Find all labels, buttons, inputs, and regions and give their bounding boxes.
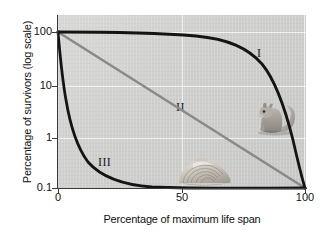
y-tick-label-1: 1 <box>22 132 52 143</box>
y-tick-label-1-wrap: 1 <box>22 132 52 144</box>
plot-area: I II III <box>58 15 306 188</box>
x-tick-label-100: 100 <box>285 192 325 203</box>
survivorship-curve-figure: Percentage of survivors (log scale) Perc… <box>0 0 334 234</box>
y-tick-label-10: 10 <box>22 80 52 91</box>
x-tick-label-50: 50 <box>162 192 202 203</box>
y-tick-label-100-wrap: 100 <box>22 26 52 38</box>
gridline-x-100 <box>304 15 305 188</box>
label-type-iii: III <box>98 155 111 170</box>
label-type-i: I <box>257 46 261 61</box>
x-axis-label: Percentage of maximum life span <box>58 213 306 225</box>
y-tick-mark-100 <box>52 32 58 33</box>
label-type-ii: II <box>176 100 185 115</box>
y-tick-mark-1 <box>52 138 58 139</box>
y-tick-mark-10 <box>52 86 58 87</box>
y-tick-label-100: 100 <box>22 26 52 37</box>
y-axis-line <box>57 15 58 189</box>
y-tick-label-10-wrap: 10 <box>22 80 52 92</box>
squirrel-figure <box>249 98 299 140</box>
x-tick-label-0: 0 <box>38 192 78 203</box>
